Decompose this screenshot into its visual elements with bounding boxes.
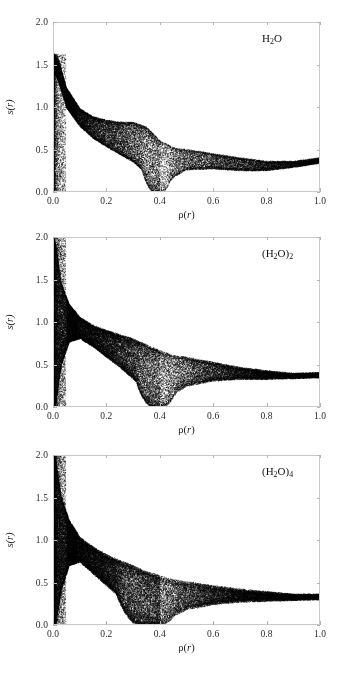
- x-tick-top: [213, 237, 214, 240]
- x-tick-label: 0.4: [154, 196, 166, 206]
- panel-label-prefix: (H: [262, 465, 274, 477]
- x-tick-top: [320, 455, 321, 458]
- scatter-canvas-dimer: [53, 237, 320, 407]
- x-tick-top: [267, 237, 268, 240]
- y-tick-right: [317, 455, 320, 456]
- panel-label-middle: O): [278, 247, 290, 259]
- y-axis-title-suffix: ): [4, 314, 15, 318]
- y-tick: [53, 540, 57, 541]
- y-tick-label: 2.0: [22, 17, 48, 27]
- x-tick: [213, 403, 214, 407]
- y-axis-title-prefix: s(: [4, 107, 15, 115]
- x-tick-label: 1.0: [314, 629, 326, 639]
- y-tick: [53, 237, 57, 238]
- x-tick: [267, 621, 268, 625]
- x-tick-label: 0.8: [261, 411, 273, 421]
- y-tick-label: 1.5: [22, 493, 48, 503]
- x-tick-top: [267, 455, 268, 458]
- x-tick: [213, 188, 214, 192]
- y-axis-title: s(r): [4, 99, 15, 114]
- y-tick-label: 0.5: [22, 360, 48, 370]
- x-tick-top: [213, 22, 214, 25]
- y-tick: [53, 65, 57, 66]
- y-axis-title-suffix: ): [4, 99, 15, 103]
- y-tick-right: [317, 540, 320, 541]
- y-tick-right: [317, 498, 320, 499]
- scatter-canvas-tetramer: [53, 455, 320, 625]
- panel-label-prefix: H: [262, 32, 270, 44]
- y-axis-title-variable: r: [4, 536, 15, 540]
- y-tick: [53, 22, 57, 23]
- y-tick-label: 0.5: [22, 578, 48, 588]
- y-tick-label: 1.5: [22, 60, 48, 70]
- x-tick: [267, 188, 268, 192]
- y-tick: [53, 455, 57, 456]
- panel-label-dimer: (H2O)2: [262, 247, 293, 261]
- x-tick-top: [320, 22, 321, 25]
- x-tick: [320, 188, 321, 192]
- panel-label-subscript-2: 4: [289, 470, 293, 479]
- x-tick: [213, 621, 214, 625]
- x-tick-label: 1.0: [314, 196, 326, 206]
- x-tick-label: 0.8: [261, 196, 273, 206]
- x-tick-label: 0.2: [100, 629, 112, 639]
- y-tick-right: [317, 280, 320, 281]
- y-tick-right: [317, 192, 320, 193]
- y-axis-title-prefix: s(: [4, 322, 15, 330]
- x-tick-top: [267, 22, 268, 25]
- panel-label-suffix: O: [274, 32, 282, 44]
- y-tick-right: [317, 237, 320, 238]
- x-tick-top: [106, 22, 107, 25]
- x-tick-label: 0.4: [154, 629, 166, 639]
- y-tick-right: [317, 65, 320, 66]
- x-tick-top: [106, 237, 107, 240]
- x-tick: [160, 403, 161, 407]
- x-axis-title-suffix: ): [191, 424, 195, 435]
- x-tick: [106, 188, 107, 192]
- x-tick-top: [160, 455, 161, 458]
- panel-label-monomer: H2O: [262, 32, 282, 46]
- figure-container: 0.00.20.40.60.81.00.00.51.01.52.0ρ(r)s(r…: [0, 0, 344, 680]
- x-tick-top: [106, 455, 107, 458]
- plot-panel-dimer: 0.00.20.40.60.81.00.00.51.01.52.0ρ(r)s(r…: [0, 237, 344, 447]
- x-tick: [320, 403, 321, 407]
- y-axis-title-variable: r: [4, 318, 15, 322]
- y-tick: [53, 365, 57, 366]
- x-tick-label: 0.8: [261, 629, 273, 639]
- y-tick-label: 2.0: [22, 232, 48, 242]
- y-axis-title-prefix: s(: [4, 540, 15, 548]
- x-tick-label: 0.2: [100, 411, 112, 421]
- x-axis-title-suffix: ): [191, 209, 195, 220]
- y-tick-right: [317, 322, 320, 323]
- x-tick-label: 0.0: [47, 629, 59, 639]
- x-tick: [106, 403, 107, 407]
- panel-label-prefix: (H: [262, 247, 274, 259]
- y-tick: [53, 498, 57, 499]
- x-tick-label: 0.2: [100, 196, 112, 206]
- x-tick: [106, 621, 107, 625]
- y-tick-label: 0.0: [22, 187, 48, 197]
- y-tick: [53, 150, 57, 151]
- x-axis-title-prefix: ρ(: [178, 424, 187, 435]
- x-axis-title: ρ(r): [178, 209, 194, 220]
- panel-label-subscript-2: 2: [289, 252, 293, 261]
- x-tick-top: [160, 22, 161, 25]
- y-tick-right: [317, 583, 320, 584]
- y-tick-right: [317, 150, 320, 151]
- y-tick-right: [317, 107, 320, 108]
- x-tick-label: 0.6: [207, 411, 219, 421]
- y-tick-label: 1.0: [22, 535, 48, 545]
- plot-panel-monomer: 0.00.20.40.60.81.00.00.51.01.52.0ρ(r)s(r…: [0, 22, 344, 232]
- y-tick-label: 0.0: [22, 620, 48, 630]
- x-tick: [160, 621, 161, 625]
- y-tick: [53, 625, 57, 626]
- x-tick: [320, 621, 321, 625]
- y-tick-label: 0.5: [22, 145, 48, 155]
- panel-label-tetramer: (H2O)4: [262, 465, 293, 479]
- y-tick-label: 1.0: [22, 102, 48, 112]
- x-tick-label: 1.0: [314, 411, 326, 421]
- x-tick-top: [320, 237, 321, 240]
- y-tick-right: [317, 22, 320, 23]
- y-tick: [53, 407, 57, 408]
- scatter-canvas-monomer: [53, 22, 320, 192]
